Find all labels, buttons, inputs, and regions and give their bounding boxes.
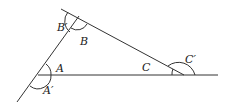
label-a: A <box>56 63 64 74</box>
triangle-diagram <box>0 0 232 109</box>
label-b-prime: B′ <box>57 22 68 33</box>
angle-arc-c <box>172 69 173 75</box>
angle-arc-a <box>46 64 51 75</box>
label-a-prime: A′ <box>43 85 53 96</box>
label-b: B <box>80 36 88 47</box>
angle-arc-b <box>71 24 87 30</box>
label-c-prime: C′ <box>185 54 196 65</box>
label-c: C <box>142 62 150 73</box>
